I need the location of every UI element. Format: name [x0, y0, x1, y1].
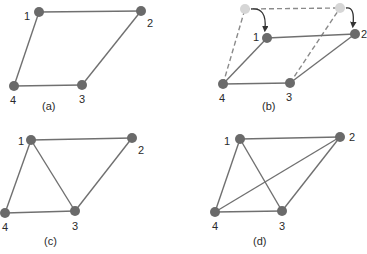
node-label: 1: [253, 31, 259, 43]
node-label: 3: [79, 93, 85, 105]
node-label: 4: [212, 220, 218, 232]
node-label: 1: [24, 10, 30, 22]
node-label: 1: [18, 135, 24, 147]
edge-3-4: [223, 83, 290, 84]
ghost-node: [240, 4, 250, 14]
move-arrow-icon: [346, 8, 353, 25]
edge-4-1: [5, 140, 31, 213]
edge-4-1: [223, 38, 267, 84]
node-label: 2: [138, 144, 144, 156]
edge-1-2: [39, 11, 141, 12]
panel-caption: (c): [44, 235, 57, 247]
edge-1-3: [31, 140, 75, 211]
node-1: [26, 135, 36, 145]
edge-1-2: [31, 138, 132, 140]
edge-1-2: [267, 34, 355, 38]
edge-2-3: [75, 138, 132, 211]
node-1: [34, 7, 44, 17]
node-label: 3: [279, 220, 285, 232]
edge-1-2: [240, 137, 340, 139]
panel-a: 1234(a): [9, 6, 153, 112]
graph-figure: 1234(a)1234(b)1234(c)1234(d): [0, 0, 367, 254]
node-2: [350, 29, 360, 39]
node-label: 2: [361, 28, 367, 40]
edge-2-3: [290, 34, 355, 83]
node-1: [262, 33, 272, 43]
node-2: [335, 132, 345, 142]
edge-3-4: [5, 211, 75, 213]
node-2: [127, 133, 137, 143]
edge-2-3: [82, 11, 141, 85]
panel-c: 1234(c): [0, 133, 144, 247]
dashed-edge-1'-2': [245, 8, 340, 9]
node-4: [0, 208, 10, 218]
edge-4-1: [215, 139, 240, 212]
node-label: 4: [219, 92, 225, 104]
node-3: [77, 80, 87, 90]
node-label: 4: [2, 221, 8, 233]
edge-3-4: [215, 211, 282, 212]
node-2: [136, 6, 146, 16]
node-4: [9, 81, 19, 91]
edge-4-1: [14, 12, 39, 86]
node-3: [70, 206, 80, 216]
node-4: [218, 79, 228, 89]
panel-caption: (b): [262, 100, 275, 112]
panel-caption: (d): [253, 235, 266, 247]
dashed-edge-3-2': [290, 8, 340, 83]
node-label: 3: [72, 220, 78, 232]
edge-2-4: [215, 137, 340, 212]
ghost-node: [335, 3, 345, 13]
node-label: 2: [349, 131, 355, 143]
node-1: [235, 134, 245, 144]
edge-3-4: [14, 85, 82, 86]
node-label: 1: [224, 135, 230, 147]
edge-2-3: [282, 137, 340, 211]
move-arrow-icon: [251, 9, 265, 29]
node-4: [210, 207, 220, 217]
node-3: [277, 206, 287, 216]
node-label: 3: [286, 91, 292, 103]
panel-caption: (a): [42, 100, 55, 112]
node-label: 2: [147, 17, 153, 29]
panel-d: 1234(d): [210, 131, 355, 247]
node-3: [285, 78, 295, 88]
node-label: 4: [10, 94, 16, 106]
panel-b: 1234(b): [218, 3, 367, 112]
